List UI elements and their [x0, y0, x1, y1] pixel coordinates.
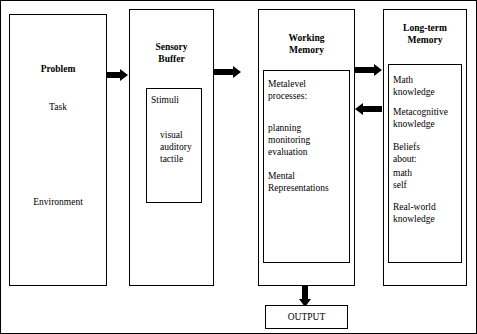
ltm-group-realworld-line1: Real-world: [393, 201, 463, 213]
ltm-group-math-line1: Math: [393, 74, 463, 86]
output-box-title: OUTPUT: [265, 311, 348, 323]
problem-item-task: Task: [9, 101, 107, 113]
problem-box: [9, 14, 107, 286]
arrow-problem-to-sensory: [107, 67, 129, 79]
arrow-sensory-to-working: [214, 64, 242, 76]
ltm-group-math-line2: knowledge: [393, 86, 463, 98]
problem-box-title: Problem: [9, 63, 107, 75]
working-inner-metalevel-line2: processes:: [268, 90, 348, 102]
working-inner-mental-line1: Mental: [268, 170, 348, 182]
working-inner-item-planning: planning: [268, 122, 348, 134]
ltm-group-beliefs-line2: about:: [393, 153, 463, 165]
ltm-group-beliefs-line3: math: [393, 167, 463, 179]
working-memory-title: Working Memory: [258, 32, 355, 56]
working-inner-mental-line2: Representations: [268, 182, 348, 194]
ltm-group-metacognitive-line2: knowledge: [393, 118, 463, 130]
ltm-group-beliefs-line4: self: [393, 179, 463, 191]
arrow-working-to-ltm: [355, 62, 383, 74]
working-inner-metalevel-line1: Metalevel: [268, 78, 348, 90]
sensory-inner-header: Stimuli: [151, 94, 201, 106]
long-term-memory-title: Long-term Memory: [383, 22, 467, 46]
arrow-ltm-to-working: [355, 101, 383, 113]
sensory-inner-item-auditory: auditory: [160, 141, 206, 153]
ltm-group-beliefs-line1: Beliefs: [393, 141, 463, 153]
diagram-canvas: Problem Task Environment Sensory Buffer …: [0, 0, 477, 334]
sensory-inner-item-tactile: tactile: [160, 153, 206, 165]
problem-item-environment: Environment: [9, 196, 107, 208]
ltm-group-realworld-line2: knowledge: [393, 213, 463, 225]
ltm-group-metacognitive-line1: Metacognitive: [393, 106, 463, 118]
working-inner-item-monitoring: monitoring: [268, 134, 348, 146]
sensory-buffer-title: Sensory Buffer: [129, 41, 214, 65]
working-inner-item-evaluation: evaluation: [268, 146, 348, 158]
sensory-inner-item-visual: visual: [160, 129, 206, 141]
